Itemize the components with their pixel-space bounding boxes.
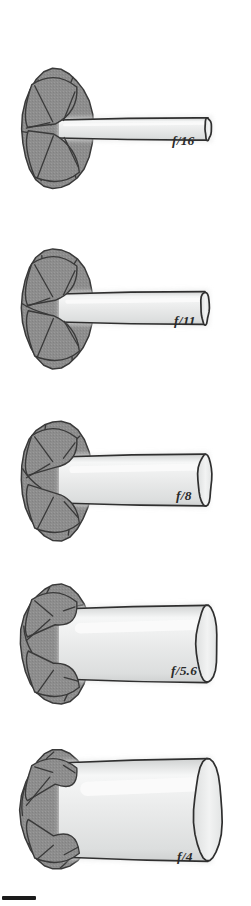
aperture-drawing: [0, 546, 251, 724]
aperture-figure: f/16f/11f/8f/5.6f/4: [0, 0, 251, 906]
cone-end-opening: [198, 454, 212, 506]
fstop-label: f/8: [176, 488, 192, 504]
page-edge-rule: [2, 896, 36, 900]
fstop-label: f/16: [172, 133, 195, 149]
aperture-stage: [0, 718, 251, 900]
aperture-drawing: [0, 718, 251, 900]
aperture-stage: [0, 380, 251, 550]
aperture-drawing: [0, 22, 251, 192]
cone-highlight: [73, 467, 198, 470]
cone-end-opening: [194, 759, 223, 861]
fstop-label: f/5.6: [171, 663, 197, 679]
aperture-stage: [0, 203, 251, 373]
cone-highlight: [87, 784, 194, 789]
fstop-label: f/4: [177, 849, 193, 865]
cone-highlight: [80, 625, 197, 629]
fstop-label: f/11: [174, 313, 196, 329]
aperture-drawing: [0, 380, 251, 550]
aperture-stage: [0, 546, 251, 724]
aperture-stage: [0, 22, 251, 192]
cone-highlight: [67, 300, 200, 302]
cone-highlight: [64, 123, 204, 124]
aperture-drawing: [0, 203, 251, 373]
